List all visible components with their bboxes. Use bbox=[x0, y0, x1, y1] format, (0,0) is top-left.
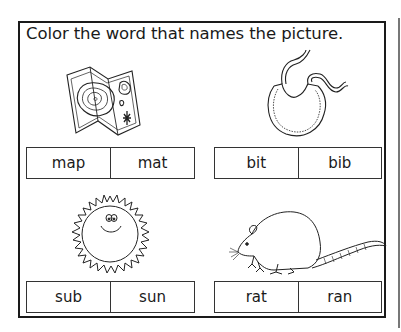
word-choice-sun[interactable]: sun bbox=[110, 282, 194, 312]
map-icon bbox=[62, 63, 142, 143]
word-choice-mat[interactable]: mat bbox=[110, 148, 194, 178]
word-choices-rat: rat ran bbox=[214, 281, 382, 313]
page-edge bbox=[398, 18, 400, 328]
word-choices-map: map mat bbox=[26, 147, 195, 179]
word-choices-bib: bit bib bbox=[214, 147, 382, 179]
word-choice-rat[interactable]: rat bbox=[215, 282, 298, 312]
bib-icon bbox=[262, 48, 362, 143]
word-choice-map[interactable]: map bbox=[27, 148, 110, 178]
instruction-text: Color the word that names the picture. bbox=[26, 24, 343, 43]
sun-icon bbox=[65, 190, 155, 278]
word-choice-bit[interactable]: bit bbox=[215, 148, 298, 178]
word-choices-sun: sub sun bbox=[26, 281, 195, 313]
word-choice-ran[interactable]: ran bbox=[298, 282, 382, 312]
word-choice-sub[interactable]: sub bbox=[27, 282, 110, 312]
rat-icon bbox=[228, 206, 388, 278]
word-choice-bib[interactable]: bib bbox=[298, 148, 382, 178]
